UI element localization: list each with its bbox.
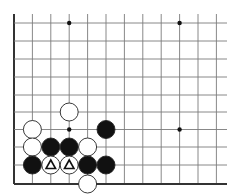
star-point [67,21,71,25]
black-stone [79,156,97,174]
white-stone [23,138,41,156]
star-point [177,21,181,25]
white-stone [23,121,41,139]
black-stone [97,121,115,139]
black-stone [23,156,41,174]
black-stone [97,156,115,174]
white-stone [60,103,78,121]
white-stone [79,138,97,156]
black-stone [42,138,60,156]
white-stone [79,175,97,193]
star-point [177,127,181,131]
go-board [0,0,241,196]
black-stone [60,138,78,156]
star-point [67,127,71,131]
